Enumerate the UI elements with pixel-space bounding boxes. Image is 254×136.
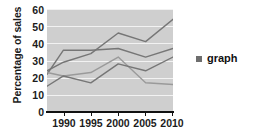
legend-label: graph — [207, 53, 238, 64]
x-axis-tick — [64, 112, 65, 116]
y-axis-tick-labels: 60 50 40 30 20 10 0 — [20, 0, 44, 136]
y-tick-label: 30 — [20, 56, 44, 66]
y-tick-label: 20 — [20, 73, 44, 83]
y-tick-label: 50 — [20, 22, 44, 32]
x-tick-label: 2010 — [155, 117, 189, 129]
y-tick-label: 10 — [20, 90, 44, 100]
series-lines — [47, 9, 173, 112]
x-axis-line — [46, 111, 174, 113]
x-axis-tick — [172, 112, 173, 116]
x-axis-tick — [145, 112, 146, 116]
chart-figure: Percentage of sales 60 50 40 30 20 10 0 … — [0, 0, 254, 136]
x-axis-tick — [118, 112, 119, 116]
y-tick-label: 0 — [20, 107, 44, 117]
legend-swatch-icon — [196, 56, 202, 62]
series-line — [47, 19, 173, 71]
legend: graph — [196, 53, 238, 64]
plot-area — [47, 9, 173, 112]
y-tick-label: 40 — [20, 39, 44, 49]
x-axis-tick — [91, 112, 92, 116]
y-tick-label: 60 — [20, 5, 44, 15]
